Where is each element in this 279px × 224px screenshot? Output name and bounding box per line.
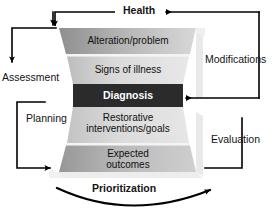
label-planning: Planning: [26, 113, 67, 124]
connector-health-into-funnel: [55, 12, 115, 26]
connector-assessment: [12, 28, 56, 62]
label-health: Health: [123, 5, 155, 16]
nursing-process-diagram: Health Assessment Planning Modifications…: [0, 0, 279, 224]
band-label-diagnosis: Diagnosis: [73, 90, 183, 101]
label-prioritization: Prioritization: [92, 183, 156, 194]
band-label-expected-line1: Expected: [62, 148, 194, 159]
band-label-signs: Signs of illness: [66, 64, 190, 75]
band-label-restorative-line1: Restorative: [66, 112, 190, 123]
label-modifications: Modifications: [205, 54, 266, 65]
band-label-restorative-line2: interventions/goals: [62, 123, 194, 134]
label-evaluation: Evaluation: [211, 134, 260, 145]
label-assessment: Assessment: [2, 72, 59, 83]
band-label-alteration: Alteration/problem: [59, 35, 197, 46]
band-label-expected-line2: outcomes: [62, 159, 194, 170]
